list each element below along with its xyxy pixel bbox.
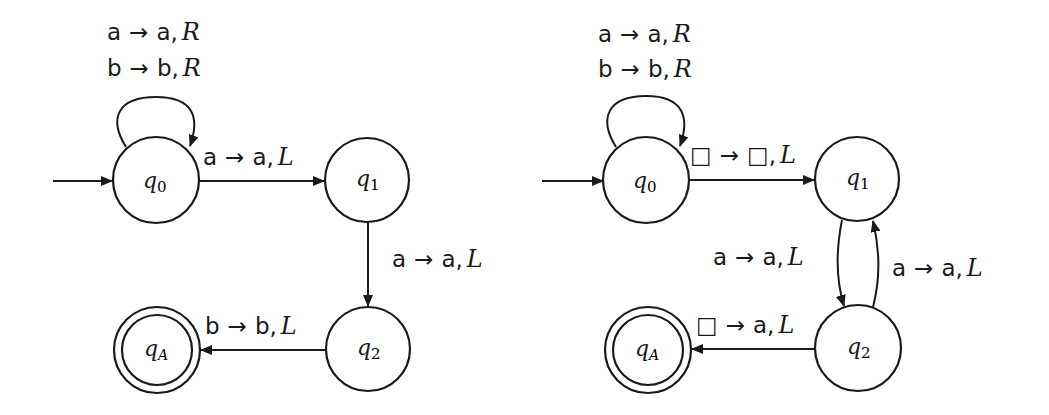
edge-q0-q1-label: □→□,L [690, 141, 796, 169]
state-q2: q2 [815, 305, 901, 391]
state-q1: q1 [325, 138, 409, 222]
state-q1: q1 [815, 137, 899, 221]
svg-text:a→a,R: a→a,R [107, 18, 200, 46]
svg-text:b→b,R: b→b,R [107, 54, 201, 82]
left-diagram: a→a,R b→b,R a→a,L a→a,L b→b,L q0 q1 q2 q… [53, 18, 483, 393]
state-qA-accept: qA [605, 307, 691, 393]
q0-self-loop-label: a→a,R b→b,R [598, 20, 692, 83]
edge-q1-q2-label: a→a,L [392, 245, 483, 273]
svg-text:a→a,R: a→a,R [598, 20, 691, 48]
edge-q2-q1 [873, 221, 878, 307]
svg-text:b→b,R: b→b,R [598, 55, 692, 83]
edge-q1-q2-label: a→a,L [713, 243, 804, 271]
state-qA-accept: qA [114, 307, 200, 393]
state-q0: q0 [113, 137, 199, 223]
edge-q0-q1-label: a→a,L [203, 143, 294, 171]
turing-machine-diagrams: a→a,R b→b,R a→a,L a→a,L b→b,L q0 q1 q2 q… [0, 0, 1049, 415]
right-diagram: a→a,R b→b,R □→□,L a→a,L a→a,L □→a,L q0 q… [542, 20, 983, 393]
edge-q2-q1-label: a→a,L [892, 254, 983, 282]
state-q2: q2 [326, 307, 410, 391]
q0-self-loop-label: a→a,R b→b,R [107, 18, 201, 82]
state-q0: q0 [603, 137, 689, 223]
edge-q1-q2 [838, 220, 844, 306]
edge-q2-qA-label: b→b,L [205, 312, 297, 340]
edge-q2-qA-label: □→a,L [696, 311, 794, 339]
